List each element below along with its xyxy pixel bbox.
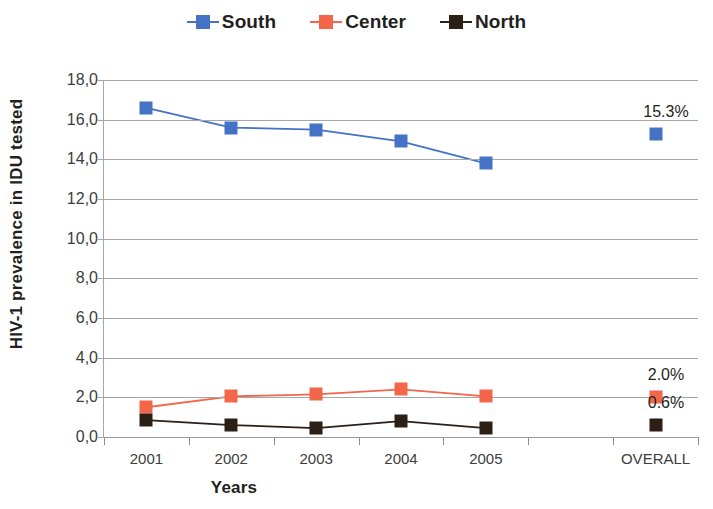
y-axis-tick-label: 6,0	[40, 309, 98, 327]
x-axis-tick-mark	[274, 438, 275, 445]
data-point-center-2001	[140, 401, 153, 414]
y-axis-tick-mark	[98, 318, 104, 319]
data-label-north: 0.6%	[648, 394, 684, 412]
data-point-north-2002	[225, 419, 238, 432]
legend-line-south-right	[210, 21, 219, 23]
y-axis-tick-mark	[98, 120, 104, 121]
y-axis-tick-mark	[98, 80, 104, 81]
data-point-center-2002	[225, 390, 238, 403]
data-label-center: 2.0%	[648, 366, 684, 384]
x-axis-title: Years	[0, 478, 468, 498]
chart-container: South Center North HIV-1 prevalence in I…	[0, 0, 713, 509]
gridline	[104, 120, 698, 121]
x-axis-tick-label: 2001	[101, 450, 191, 467]
legend-item-center: Center	[310, 11, 406, 33]
legend-line-north-right	[463, 21, 472, 23]
data-point-south-2005	[479, 157, 492, 170]
data-point-center-2004	[395, 383, 408, 396]
chart-legend: South Center North	[0, 6, 713, 38]
x-axis-tick-label: 2002	[186, 450, 276, 467]
x-axis-tick-mark	[189, 438, 190, 445]
y-axis-tick-mark	[98, 278, 104, 279]
legend-item-north: North	[440, 11, 526, 33]
legend-swatch-north	[449, 15, 463, 29]
y-axis-tick-label: 8,0	[40, 269, 98, 287]
y-axis-title: HIV-1 prevalence in IDU tested	[2, 0, 32, 447]
data-point-north-2003	[310, 422, 323, 435]
data-point-north-OVERALL	[649, 419, 662, 432]
data-point-south-2001	[140, 101, 153, 114]
y-axis-title-text: HIV-1 prevalence in IDU tested	[7, 98, 27, 349]
legend-label-center: Center	[345, 11, 406, 33]
data-point-north-2005	[479, 422, 492, 435]
y-axis-tick-label: 18,0	[40, 71, 98, 89]
x-axis-tick-label: 2004	[356, 450, 446, 467]
y-axis-tick-label: 2,0	[40, 388, 98, 406]
x-axis-tick-label: 2005	[441, 450, 531, 467]
legend-swatch-center	[319, 15, 333, 29]
data-point-south-2004	[395, 135, 408, 148]
legend-item-south: South	[187, 11, 276, 33]
gridline	[104, 318, 698, 319]
legend-label-north: North	[475, 11, 526, 33]
gridline	[104, 80, 698, 81]
y-axis-tick-mark	[98, 239, 104, 240]
legend-line-center-right	[333, 21, 342, 23]
y-axis-tick-mark	[98, 397, 104, 398]
gridline	[104, 199, 698, 200]
data-point-south-2003	[310, 123, 323, 136]
data-point-south-2002	[225, 121, 238, 134]
x-axis-tick-mark	[613, 438, 614, 445]
x-axis-tick-mark	[359, 438, 360, 445]
legend-label-south: South	[222, 11, 276, 33]
y-axis-tick-labels: 18,016,014,012,010,08,06,04,02,00,0	[40, 0, 98, 509]
legend-line-center	[310, 21, 319, 23]
legend-line-north	[440, 21, 449, 23]
x-axis-tick-label: OVERALL	[611, 450, 701, 467]
x-axis-tick-mark	[698, 438, 699, 445]
gridline	[104, 437, 698, 438]
y-axis-tick-label: 10,0	[40, 230, 98, 248]
legend-line-south	[187, 21, 196, 23]
y-axis-tick-label: 16,0	[40, 111, 98, 129]
y-axis-tick-label: 14,0	[40, 150, 98, 168]
gridline	[104, 397, 698, 398]
y-axis-tick-label: 4,0	[40, 349, 98, 367]
data-point-center-2005	[479, 390, 492, 403]
gridline	[104, 358, 698, 359]
gridline	[104, 239, 698, 240]
y-axis-tick-label: 12,0	[40, 190, 98, 208]
gridline	[104, 278, 698, 279]
legend-swatch-south	[196, 15, 210, 29]
x-axis-tick-label: 2003	[271, 450, 361, 467]
gridline	[104, 159, 698, 160]
data-point-north-2004	[395, 415, 408, 428]
y-axis-tick-mark	[98, 199, 104, 200]
y-axis-tick-mark	[98, 159, 104, 160]
plot-area: 15.3%2.0%0.6%	[104, 80, 698, 437]
y-axis-tick-label: 0,0	[40, 428, 98, 446]
data-point-center-2003	[310, 388, 323, 401]
data-label-south: 15.3%	[643, 103, 688, 121]
data-point-north-2001	[140, 414, 153, 427]
y-axis-tick-mark	[98, 358, 104, 359]
x-axis-tick-mark	[104, 438, 105, 445]
x-axis-tick-mark	[443, 438, 444, 445]
x-axis-tick-mark	[528, 438, 529, 445]
data-point-south-OVERALL	[649, 127, 662, 140]
